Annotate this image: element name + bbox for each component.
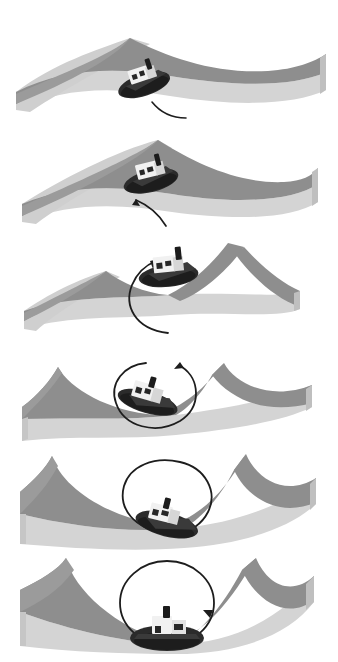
panel-2: saddle-quarter-arc [0,128,338,236]
arrowhead [174,362,184,369]
boat-cabin-window [155,626,161,633]
trajectory-arrow [152,102,186,118]
slab-right-side [312,168,318,206]
slab-left-side [20,612,26,646]
boat-cabin-window [156,263,163,270]
slab-right-side [320,54,326,94]
panel-4: valley-three-quarter-circle [0,345,338,453]
boat-cabin-window-2 [174,624,183,630]
panel-3: valley-half-arc [0,237,338,343]
slab-left-side [22,417,28,441]
slab-left-side [20,514,26,544]
slab-right-side [306,385,312,411]
boat-cabin-window-2 [165,261,171,267]
surface-right-bowl [242,558,314,609]
boat [130,606,204,651]
figure-sequence: gentle-saddle-short-tail [0,0,338,662]
slab-right-side [294,291,300,311]
slab-right-side [306,576,314,610]
panel-5: deep-valley-near-full-circle [0,452,338,560]
surface-right-bowl [212,363,312,407]
surface-right-bowl [234,454,316,508]
boat-smokestack [163,606,170,618]
boat-cabin [153,255,177,273]
boat-deck [134,634,200,639]
panel-6: deep-valley-full-circle [0,556,338,662]
panel-1: gentle-saddle-short-tail [0,14,338,126]
